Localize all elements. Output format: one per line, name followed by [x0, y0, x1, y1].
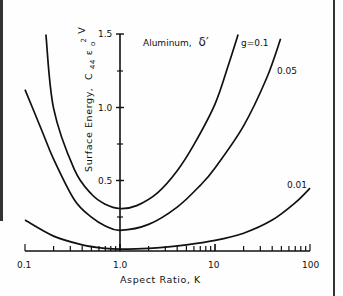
y-axis-title-v: V: [76, 27, 87, 34]
chart-figure: 1.5 1.0 0.5 0.1 1.0 10 100 Aspect Ratio,…: [0, 0, 343, 296]
x-tick-label-10: 10: [208, 260, 220, 270]
y-tick-label-1.0: 1.0: [98, 103, 113, 113]
y-axis-title-c-sub: 44: [89, 59, 97, 69]
y-tick-label-0.5: 0.5: [98, 176, 112, 186]
y-axis-title-eps-sup: 2: [80, 37, 88, 42]
x-tick-label-0.1: 0.1: [17, 260, 31, 270]
x-tick-label-100: 100: [302, 260, 319, 270]
y-axis: [116, 34, 124, 251]
curve-g-0.1: [46, 35, 238, 209]
y-axis-title-prefix: Surface Energy,: [83, 88, 94, 173]
y-axis-title-c: C: [83, 73, 94, 80]
curve-g-0.05: [25, 39, 281, 231]
curve-g-0.01: [25, 188, 310, 249]
y-axis-title-eps: ε: [83, 50, 94, 56]
svg-text:Surface Energy, C: Surface Energy, C 44 ε o 2 V: [76, 27, 97, 172]
curve-label-g-0.1: g=0.1: [241, 38, 269, 48]
material-annotation: Aluminum, δ′: [143, 35, 209, 49]
x-axis-title: Aspect Ratio, K: [120, 274, 201, 285]
y-tick-label-1.5: 1.5: [98, 29, 112, 39]
curve-label-g-0.01: 0.01: [287, 180, 307, 190]
x-tick-label-1.0: 1.0: [113, 260, 128, 270]
y-axis-title: Surface Energy, C 44 ε o 2 V: [76, 27, 97, 172]
chart-canvas: 1.5 1.0 0.5 0.1 1.0 10 100 Aspect Ratio,…: [0, 0, 343, 296]
y-axis-title-eps-sub: o: [89, 41, 97, 46]
annotation-symbol: δ′: [199, 35, 209, 49]
curve-label-g-0.05: 0.05: [277, 66, 297, 76]
annotation-text: Aluminum,: [143, 38, 192, 48]
